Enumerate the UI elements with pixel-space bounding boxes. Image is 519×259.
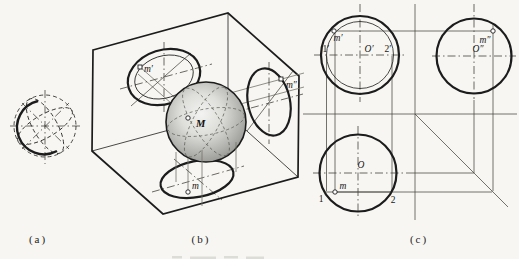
panel-c-orthographic-views: m′ 1′ O′ 2′ m″ O″ m O 1 2 xyxy=(303,4,517,220)
label-m-prime-front: m′ xyxy=(334,33,344,43)
label-O-prime: O′ xyxy=(365,44,375,54)
panel-a-centerlines xyxy=(10,90,82,164)
sphere xyxy=(166,82,246,162)
panel-a-sphere-sketch xyxy=(10,90,82,164)
profile-plane-circle xyxy=(236,62,303,144)
label-O-dblprime: O″ xyxy=(473,44,485,54)
label-m-b: m xyxy=(192,181,199,191)
panel-b-axonometric: m′ m″ m M xyxy=(92,13,304,214)
figure-canvas: m′ m″ m M xyxy=(0,0,519,259)
label-m-top: m xyxy=(340,181,347,191)
label-O: O xyxy=(358,160,365,170)
miter-line-45deg xyxy=(415,114,508,207)
marker-m-dblprime-side xyxy=(491,29,495,33)
label-m-prime-b: m′ xyxy=(144,64,154,74)
point-marker-m-prime xyxy=(138,65,142,69)
label-1-prime: 1′ xyxy=(323,44,330,54)
label-1: 1 xyxy=(319,194,324,204)
panel-label-c: (c) xyxy=(410,233,428,246)
point-marker-m xyxy=(186,190,190,194)
label-2: 2 xyxy=(391,195,396,205)
label-sphere-center: M xyxy=(195,118,206,129)
textbook-figure-sphere-projection: m′ m″ m M xyxy=(0,0,519,259)
marker-m-top xyxy=(333,190,337,194)
sphere-center-marker xyxy=(186,116,190,120)
panel-label-a: (a) xyxy=(29,233,47,246)
side-view: m″ O″ xyxy=(432,4,516,99)
label-m-dblprime-b: m″ xyxy=(286,80,298,90)
point-marker-m-dblprime xyxy=(279,77,283,81)
label-2-prime: 2′ xyxy=(385,44,392,54)
panel-label-b: (b) xyxy=(192,233,211,246)
visible-contour-arc xyxy=(17,101,57,154)
